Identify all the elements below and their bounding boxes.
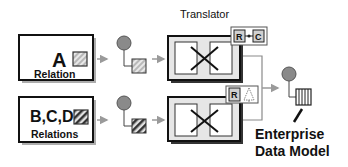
light-hatch-icon (73, 52, 87, 66)
dark-hatch-icon (74, 110, 88, 124)
translator-top: R C (168, 27, 267, 83)
vertical-bars-icon (296, 89, 311, 105)
node-circle-icon (117, 36, 131, 50)
source-bcd-letters: B,C,D (30, 108, 74, 125)
source-a-relation-box: A Relation (19, 35, 96, 83)
node-bcd (117, 96, 146, 133)
source-bcd-relations-box: B,C,D Relations (19, 97, 96, 145)
badge-c-label: C (255, 32, 262, 42)
translator-bottom-badge: R (226, 86, 258, 103)
source-a-sublabel: Relation (34, 68, 75, 80)
translator-label: Translator (180, 8, 229, 20)
dark-hatch-icon (132, 119, 146, 133)
enterprise-label-line1: Enterprise (255, 126, 324, 142)
badge-r-label: R (236, 32, 243, 42)
light-hatch-icon (132, 59, 146, 73)
source-bcd-sublabel: Relations (31, 128, 78, 140)
translator-top-badge: R C (231, 27, 267, 45)
node-circle-icon (117, 96, 131, 110)
pointer-line (294, 109, 302, 122)
node-circle-icon (282, 67, 296, 81)
node-a (117, 36, 146, 73)
badge-r-label: R (231, 90, 238, 100)
enterprise-label-line2: Data Model (255, 143, 330, 159)
data-integration-diagram: A Relation B,C,D Relations Translator (0, 0, 348, 167)
translator-bottom: R (168, 86, 258, 144)
enterprise-node (282, 67, 311, 122)
